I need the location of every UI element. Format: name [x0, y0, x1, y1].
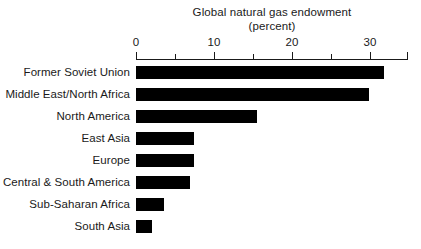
bar-track — [136, 220, 408, 233]
bar-category-label: Former Soviet Union — [24, 62, 130, 84]
x-tick-label-10: 10 — [199, 36, 229, 49]
bar-category-label: Middle East/North Africa — [5, 84, 130, 106]
bar-fill — [136, 88, 369, 101]
bar-category-label: East Asia — [82, 128, 130, 150]
bar-row: Central & South America — [0, 172, 421, 194]
bar-fill — [136, 66, 384, 79]
bar-track — [136, 176, 408, 189]
x-tick-label-0: 0 — [121, 36, 151, 49]
bar-row: North America — [0, 106, 421, 128]
bar-track — [136, 154, 408, 167]
bar-row: Middle East/North Africa — [0, 84, 421, 106]
bar-row: South Asia — [0, 216, 421, 238]
bar-track — [136, 110, 408, 123]
bar-fill — [136, 154, 194, 167]
bar-fill — [136, 110, 257, 123]
bar-track — [136, 88, 408, 101]
bar-row: East Asia — [0, 128, 421, 150]
x-tick-label-20: 20 — [277, 36, 307, 49]
bar-category-label: Sub-Saharan Africa — [29, 194, 130, 216]
bar-fill — [136, 176, 190, 189]
bar-row: Europe — [0, 150, 421, 172]
bar-category-label: North America — [56, 106, 130, 128]
bar-fill — [136, 198, 164, 211]
bar-category-label: Europe — [93, 150, 130, 172]
bar-track — [136, 66, 408, 79]
bar-row: Sub-Saharan Africa — [0, 194, 421, 216]
bar-fill — [136, 220, 152, 233]
chart-title-units: (percent) — [136, 19, 408, 33]
bar-track — [136, 132, 408, 145]
bar-fill — [136, 132, 194, 145]
x-tick-label-30: 30 — [355, 36, 385, 49]
bar-category-label: Central & South America — [3, 172, 130, 194]
bar-chart-figure: Global natural gas endowment (percent) 0… — [0, 0, 421, 249]
chart-title-main: Global natural gas endowment — [136, 5, 408, 19]
bar-rows: Former Soviet Union Middle East/North Af… — [0, 62, 421, 238]
bar-track — [136, 198, 408, 211]
chart-title: Global natural gas endowment (percent) — [136, 5, 408, 33]
bar-row: Former Soviet Union — [0, 62, 421, 84]
bar-category-label: South Asia — [75, 216, 130, 238]
